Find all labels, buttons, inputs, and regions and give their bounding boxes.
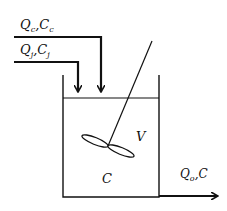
inlet-c-label: Qc,Cc [20, 18, 54, 34]
impeller-blade-right [107, 143, 136, 160]
outlet-label: Qo,C [180, 168, 208, 183]
inlet-j-label: Qj,Cj [20, 43, 50, 59]
tank-concentration-label: C [102, 172, 112, 185]
impeller-blade-left [81, 133, 110, 150]
inlet-j-pipe [14, 62, 78, 92]
volume-label: V [136, 130, 145, 143]
stirrer-shaft [108, 41, 152, 146]
